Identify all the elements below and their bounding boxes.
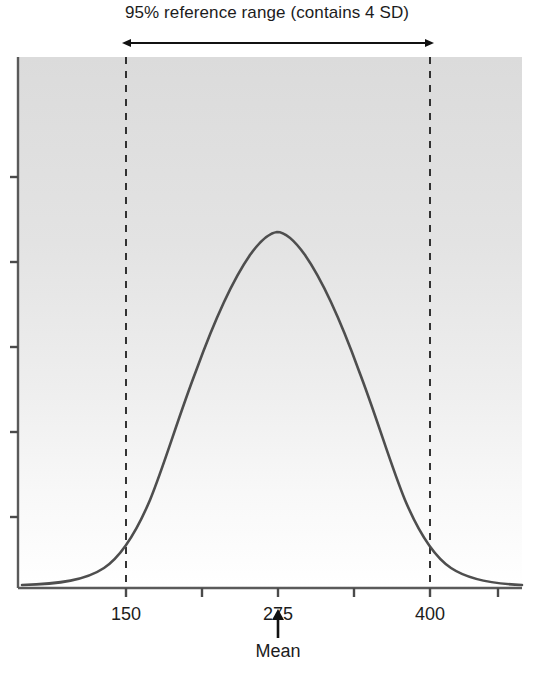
- bell-curve-figure: 95% reference range (contains 4 SD): [0, 0, 534, 674]
- mean-label: Mean: [218, 641, 338, 661]
- plot-background: [18, 57, 522, 588]
- x-tick-label-400: 400: [400, 604, 460, 624]
- x-axis-ticks: [126, 588, 498, 597]
- plot-area: [0, 0, 534, 674]
- mean-arrow-icon: [268, 608, 288, 638]
- x-tick-label-150: 150: [96, 604, 156, 624]
